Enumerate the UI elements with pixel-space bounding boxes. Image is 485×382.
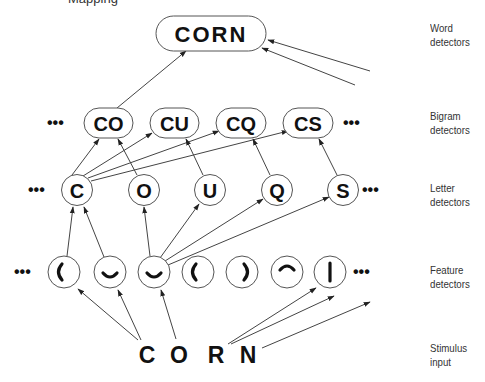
letter-node-C: C: [62, 175, 93, 206]
stimulus-letter: O: [170, 342, 188, 368]
letter-label: Q: [269, 180, 285, 202]
edge-Q-CQ: [253, 139, 270, 175]
feature-node-right-curve: [226, 256, 258, 288]
edge-f3-O: [144, 207, 150, 256]
letter-label: S: [336, 180, 349, 202]
label-bigram-detectors: Bigram detectors: [430, 109, 470, 137]
edge-N-f7: [228, 288, 316, 344]
stimulus-input: C O R N: [139, 342, 257, 368]
label-line: Feature: [430, 263, 470, 277]
bigram-node-CS: CS: [283, 108, 333, 138]
edge-f2-C: [84, 207, 104, 257]
edge-f1-C: [67, 207, 73, 256]
feature-ellipsis-right: •••: [353, 263, 370, 280]
edge-S-CS: [319, 139, 337, 175]
edge-CO-CORN: [117, 51, 186, 108]
bigram-node-CU: CU: [150, 108, 199, 138]
bigram-label: CS: [294, 113, 322, 135]
letter-label: C: [70, 180, 84, 202]
bigram-ellipsis-right: •••: [343, 114, 360, 131]
letter-label: O: [136, 180, 152, 202]
word-node-CORN: CORN: [156, 16, 266, 51]
bigram-label: CQ: [226, 113, 256, 135]
bigram-node-CO: CO: [84, 108, 133, 138]
stimulus-letter: C: [139, 342, 156, 368]
feature-node-left-curve-2: [182, 256, 214, 288]
edge-O-f3: [161, 290, 176, 339]
letter-node-S: S: [328, 175, 359, 206]
label-line: Letter: [430, 181, 470, 195]
edge-f3-U: [160, 204, 199, 258]
bigram-label: CU: [160, 113, 189, 135]
feature-ellipsis-left: •••: [14, 263, 31, 280]
feature-node-bottom-curve: [94, 256, 126, 288]
bigram-label: CO: [94, 113, 124, 135]
label-line: detectors: [430, 277, 470, 291]
edge-C-CU: [83, 133, 152, 176]
stimulus-letter: R: [208, 342, 225, 368]
edge-f3-S: [168, 197, 329, 265]
label-line: Word: [430, 21, 470, 35]
feature-node-bottom-curve-2: [138, 256, 170, 288]
letter-label: U: [203, 180, 217, 202]
label-line: Stimulus: [430, 341, 467, 355]
label-line: detectors: [430, 35, 470, 49]
edge-out1-CORN: [268, 40, 370, 71]
letter-ellipsis-right: •••: [362, 181, 379, 198]
letter-ellipsis-left: •••: [28, 181, 45, 198]
label-feature-detectors: Feature detectors: [430, 263, 470, 291]
edge-N-out2: [262, 302, 370, 348]
word-recognition-diagram: CORN ••• CO CU CQ CS ••• ••• C O U Q S •…: [0, 0, 485, 382]
word-node-label: CORN: [175, 22, 248, 47]
edge-out2-CORN: [262, 48, 355, 85]
feature-node-top-curve: [271, 256, 303, 288]
label-letter-detectors: Letter detectors: [430, 181, 470, 209]
feature-node-left-curve: [48, 256, 80, 288]
letter-node-Q: Q: [262, 175, 293, 206]
edge-U-CU: [186, 139, 203, 175]
bigram-ellipsis-left: •••: [47, 114, 64, 131]
label-word-detectors: Word detectors: [430, 21, 470, 49]
label-line: Bigram: [430, 109, 470, 123]
letter-node-U: U: [195, 175, 226, 206]
feature-node-vertical-line: [314, 256, 346, 288]
stimulus-letter: N: [240, 342, 257, 368]
label-stimulus-input: Stimulus input: [430, 341, 467, 369]
edge-C-CO: [72, 139, 99, 175]
edge-N-out1: [231, 296, 334, 344]
label-line: detectors: [430, 123, 470, 137]
label-line: input: [430, 355, 467, 369]
bigram-node-CQ: CQ: [216, 108, 266, 138]
edge-C-CS: [91, 131, 288, 181]
letter-node-O: O: [129, 175, 160, 206]
label-line: detectors: [430, 195, 470, 209]
